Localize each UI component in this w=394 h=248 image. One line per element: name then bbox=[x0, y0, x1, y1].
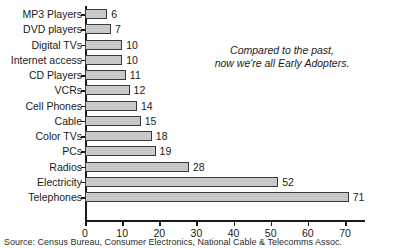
bar-value-label: 15 bbox=[145, 115, 157, 128]
bar-value-label: 11 bbox=[130, 69, 141, 82]
x-axis-tick bbox=[85, 221, 87, 226]
bar bbox=[85, 162, 189, 172]
bar-category-label: Telephones bbox=[0, 191, 82, 204]
bar-row: Cable15 bbox=[0, 114, 394, 129]
bar-category-label: DVD players bbox=[0, 23, 82, 36]
bar-row: DVD players7 bbox=[0, 22, 394, 37]
bar-category-label: MP3 Players bbox=[0, 8, 82, 21]
bar-value-label: 7 bbox=[115, 23, 121, 36]
bar bbox=[85, 40, 122, 50]
annotation-line: now we're all Early Adopters. bbox=[186, 57, 378, 70]
bar-row: VCRs12 bbox=[0, 83, 394, 98]
bar-row: MP3 Players6 bbox=[0, 7, 394, 22]
bar-category-label: Internet access bbox=[0, 54, 82, 67]
bar-value-label: 14 bbox=[141, 100, 153, 113]
bar-category-label: Cell Phones bbox=[0, 100, 82, 113]
bar-row: Radios28 bbox=[0, 160, 394, 175]
bar-value-label: 18 bbox=[156, 130, 168, 143]
bar-category-label: Color TVs bbox=[0, 130, 82, 143]
bar-row: Cell Phones14 bbox=[0, 99, 394, 114]
bar-value-label: 10 bbox=[126, 54, 138, 67]
bar bbox=[85, 24, 111, 34]
bar-value-label: 12 bbox=[134, 84, 146, 97]
bar bbox=[85, 55, 122, 65]
bar-row: Electricity52 bbox=[0, 175, 394, 190]
x-axis-tick bbox=[234, 221, 236, 226]
bar-value-label: 28 bbox=[193, 161, 205, 174]
bar-row: CD Players11 bbox=[0, 68, 394, 83]
chart-annotation: Compared to the past,now we're all Early… bbox=[186, 44, 378, 69]
bar-value-label: 71 bbox=[353, 191, 365, 204]
bar bbox=[85, 131, 152, 141]
bar bbox=[85, 9, 107, 19]
bar-category-label: Radios bbox=[0, 161, 82, 174]
bar-row: Telephones71 bbox=[0, 190, 394, 205]
bar bbox=[85, 146, 156, 156]
annotation-line: Compared to the past, bbox=[186, 44, 378, 57]
x-axis-line bbox=[85, 220, 365, 222]
bar bbox=[85, 85, 130, 95]
bar bbox=[85, 177, 278, 187]
x-axis-tick bbox=[122, 221, 124, 226]
x-axis-tick bbox=[271, 221, 273, 226]
bar-value-label: 52 bbox=[282, 176, 294, 189]
bar-category-label: PCs bbox=[0, 145, 82, 158]
bar-value-label: 19 bbox=[160, 145, 172, 158]
bar-row: Color TVs18 bbox=[0, 129, 394, 144]
x-axis-tick bbox=[196, 221, 198, 226]
bar-category-label: VCRs bbox=[0, 84, 82, 97]
bar bbox=[85, 101, 137, 111]
x-axis-tick bbox=[159, 221, 161, 226]
bar-row: PCs19 bbox=[0, 144, 394, 159]
source-note: Source: Census Bureau, Consumer Electron… bbox=[4, 237, 342, 248]
bar-category-label: CD Players bbox=[0, 69, 82, 82]
x-axis-tick bbox=[308, 221, 310, 226]
bar-value-label: 10 bbox=[126, 39, 138, 52]
bar-category-label: Digital TVs bbox=[0, 39, 82, 52]
bar-category-label: Electricity bbox=[0, 176, 82, 189]
bar bbox=[85, 70, 126, 80]
bar-value-label: 6 bbox=[111, 8, 117, 21]
x-axis-tick bbox=[345, 221, 347, 226]
bar-category-label: Cable bbox=[0, 115, 82, 128]
bar bbox=[85, 192, 349, 202]
bar bbox=[85, 116, 141, 126]
